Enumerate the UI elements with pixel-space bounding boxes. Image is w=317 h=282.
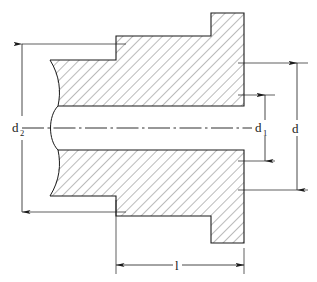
technical-drawing-flanged-bush: d 2 d 1 d l	[0, 0, 317, 282]
lower-section	[50, 150, 244, 243]
upper-section	[50, 13, 244, 106]
dimension-label-d: d	[292, 121, 299, 136]
dimension-label-d1-subscript: 1	[263, 128, 267, 138]
dimension-label-d2-subscript: 2	[20, 128, 24, 138]
part-outline-group	[22, 13, 252, 243]
dimension-d: d	[238, 63, 308, 190]
dimension-label-l: l	[175, 258, 179, 273]
dimension-label-d1: d	[255, 120, 262, 135]
dimension-label-d2: d	[12, 120, 19, 135]
